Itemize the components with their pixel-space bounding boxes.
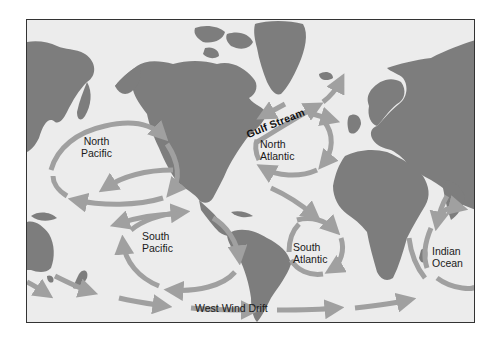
north-atlantic-gyre [323,120,331,164]
label-line: North [81,135,112,147]
map-graphic [27,20,475,323]
greenland [254,21,306,94]
label-line: South [293,241,327,253]
label-north-pacific: North Pacific [81,135,112,159]
land-masses [27,21,475,322]
south-atlantic-gyre [297,218,335,230]
label-line: Pacific [81,147,112,159]
label-indian-ocean: Indian Ocean [432,245,463,269]
label-line: Atlantic [260,150,294,162]
label-line: Atlantic [293,253,327,265]
west-wind-drift [27,282,47,294]
label-north-atlantic: North Atlantic [260,138,294,162]
label-south-atlantic: South Atlantic [293,241,327,265]
label-west-wind-drift: West Wind Drift [195,302,268,314]
label-line: Ocean [432,257,463,269]
label-line: North [260,138,294,150]
label-south-pacific: South Pacific [142,230,173,254]
british-isles [348,114,362,133]
label-line: Indian [432,245,463,257]
label-line: Pacific [142,242,173,254]
indian-ocean-gyre [425,228,431,268]
ocean-currents-map: North Pacific North Atlantic South Pacif… [26,19,475,323]
label-line: South [142,230,173,242]
australia [27,222,54,272]
